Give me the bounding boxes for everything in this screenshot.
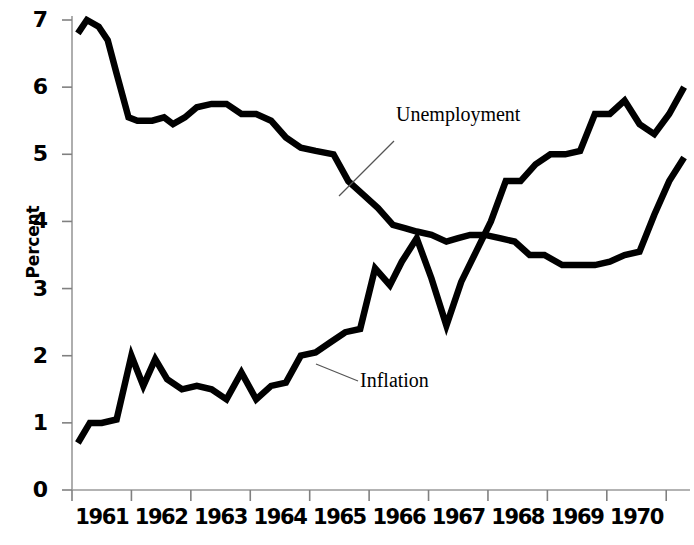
y-tick-label: 1 (14, 412, 48, 434)
series-label-unemployment: Unemployment (396, 104, 520, 124)
leader-line-unemployment (339, 141, 394, 196)
y-tick-label: 0 (14, 479, 48, 501)
y-tick-label: 5 (14, 143, 48, 165)
unemployment-inflation-chart: Percent 01234567 19611962196319641965196… (0, 0, 694, 545)
y-axis-ticks (62, 20, 72, 490)
y-tick-label: 6 (14, 76, 48, 98)
chart-plot-area (0, 0, 694, 545)
series-label-inflation: Inflation (360, 370, 429, 390)
y-tick-label: 3 (14, 278, 48, 300)
leader-line-inflation (316, 364, 358, 381)
y-tick-label: 4 (14, 210, 48, 232)
y-tick-label: 7 (14, 9, 48, 31)
series-line-unemployment (78, 20, 684, 265)
x-tick-label: 1970 (602, 507, 672, 528)
x-axis-ticks (72, 490, 666, 501)
y-tick-label: 2 (14, 345, 48, 367)
